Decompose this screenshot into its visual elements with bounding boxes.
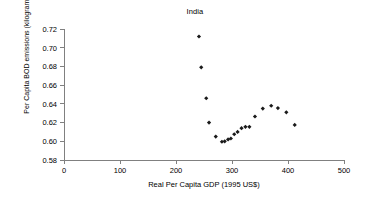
data-point [247,125,251,129]
x-tick-label: 100 [114,166,127,175]
data-point [284,110,288,114]
data-point [243,125,247,129]
data-point [293,123,297,127]
data-point [207,120,211,124]
x-tick-label: 300 [226,166,239,175]
y-tick-label: 0.66 [42,81,57,90]
y-tick-label: 0.68 [42,62,57,71]
data-point [236,130,240,134]
x-tick-label: 500 [338,166,351,175]
plot-area: 0.580.600.620.640.660.680.700.72 0100200… [0,0,390,201]
data-point [269,104,273,108]
y-tick-label: 0.58 [42,156,57,165]
y-tick-label: 0.70 [42,44,57,53]
data-point [223,139,227,143]
chart-container: India Per Capita BOD emissions (kilogram… [0,0,390,201]
y-tick-label: 0.64 [42,100,57,109]
data-point [204,96,208,100]
data-point [253,114,257,118]
data-point [214,135,218,139]
y-axis-ticks: 0.580.600.620.640.660.680.700.72 [42,25,64,165]
x-axis-ticks: 0100200300400500 [62,160,350,175]
y-tick-label: 0.72 [42,25,57,34]
x-tick-label: 0 [62,166,66,175]
data-point [261,106,265,110]
data-point [232,132,236,136]
data-points [197,34,297,143]
y-tick-label: 0.60 [42,137,57,146]
y-tick-label: 0.62 [42,118,57,127]
data-point [197,34,201,38]
data-point [276,106,280,110]
data-point [199,65,203,69]
data-point [239,126,243,130]
x-tick-label: 200 [170,166,183,175]
x-tick-label: 400 [282,166,295,175]
